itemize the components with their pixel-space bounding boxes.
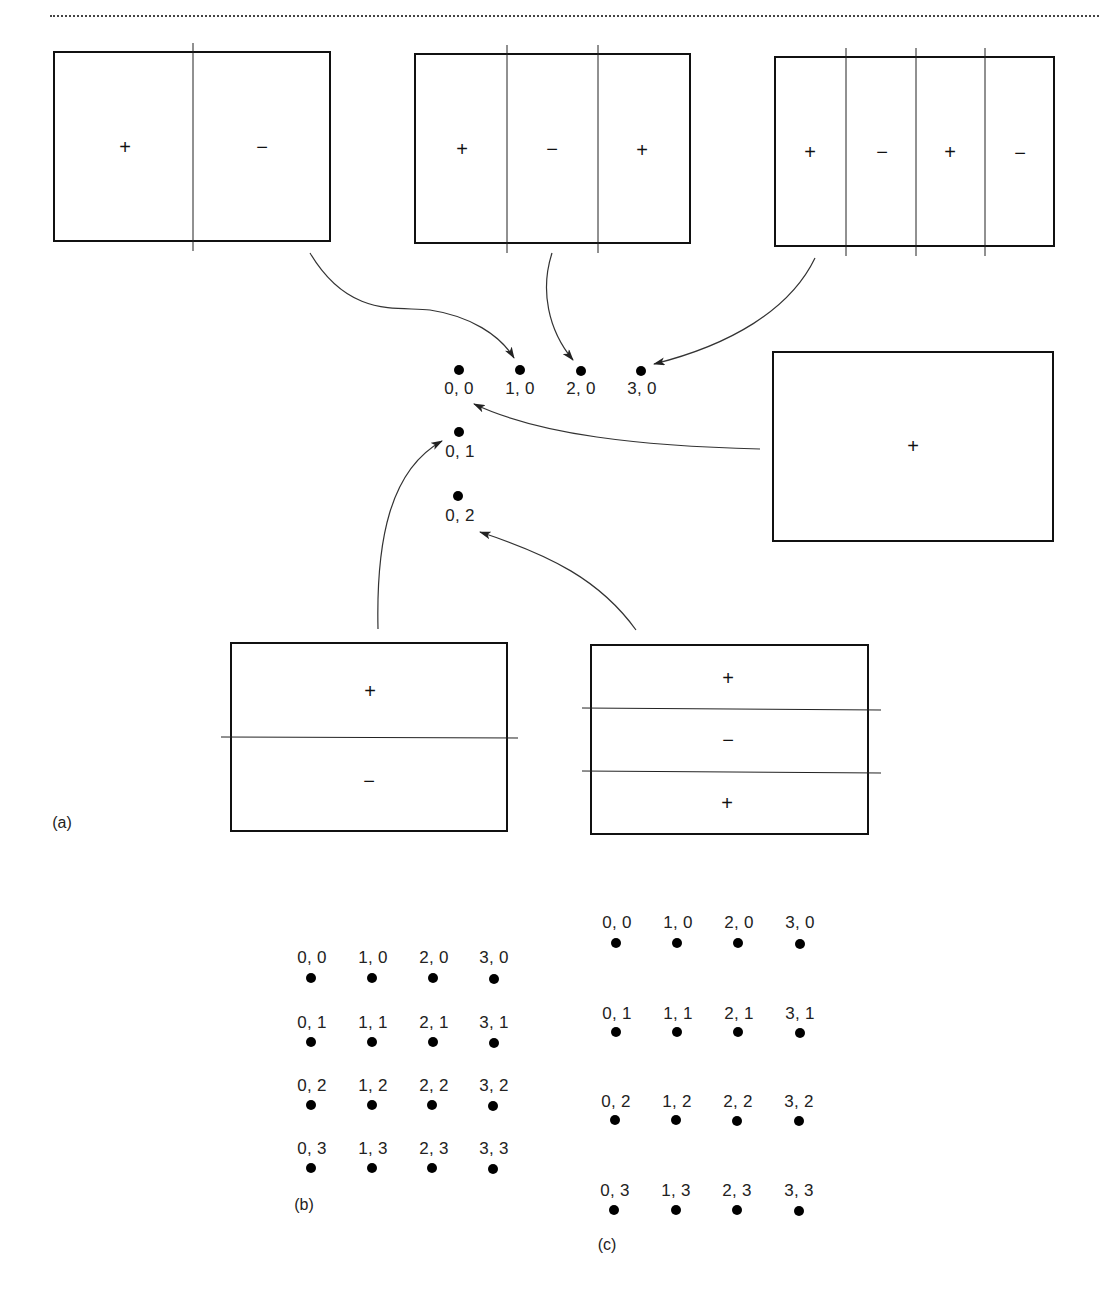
grid-c-label: 3, 0	[785, 913, 815, 933]
grid-b-label: 3, 2	[479, 1076, 509, 1096]
sign-plus: +	[721, 792, 733, 815]
grid-b-label: 1, 3	[358, 1139, 388, 1159]
arrow-box-1x2-to-0-1	[378, 441, 442, 629]
sign-minus: −	[256, 136, 268, 159]
point-label: 1, 0	[505, 379, 535, 399]
grid-c-label: 2, 0	[724, 913, 754, 933]
sign-minus: −	[363, 770, 375, 793]
arrow-box-1x3-to-0-2	[480, 532, 636, 630]
grid-c-label: 2, 2	[723, 1092, 753, 1112]
sign-plus: +	[804, 141, 816, 164]
grid-c-label: 1, 0	[663, 913, 693, 933]
grid-b-label: 2, 0	[419, 948, 449, 968]
arrow-box-4x1-to-3-0	[654, 258, 815, 364]
panel-a-caption: (a)	[52, 814, 72, 832]
arrow-box-2x1-to-1-0	[310, 253, 514, 358]
grid-b-label: 2, 1	[419, 1013, 449, 1033]
sign-minus: −	[722, 729, 734, 752]
box-1x2	[221, 643, 518, 831]
panel-a-graphics	[0, 0, 1099, 1295]
point-label: 0, 2	[445, 506, 475, 526]
grid-b-label: 3, 1	[479, 1013, 509, 1033]
grid-b-label: 2, 2	[419, 1076, 449, 1096]
panel-c-caption: (c)	[598, 1236, 617, 1254]
grid-c-label: 0, 0	[602, 913, 632, 933]
point-label: 0, 1	[445, 442, 475, 462]
panel-a-points	[453, 365, 646, 501]
box-2x1	[54, 43, 330, 251]
grid-b-label: 1, 1	[358, 1013, 388, 1033]
grid-b-label: 0, 0	[297, 948, 327, 968]
grid-c-label: 1, 1	[663, 1004, 693, 1024]
grid-b-label: 1, 0	[358, 948, 388, 968]
grid-c-label: 3, 2	[784, 1092, 814, 1112]
grid-c-label: 0, 2	[601, 1092, 631, 1112]
sign-plus: +	[456, 138, 468, 161]
box-4x1	[775, 48, 1054, 256]
grid-b-label: 1, 2	[358, 1076, 388, 1096]
point-label: 0, 0	[444, 379, 474, 399]
grid-c-label: 1, 2	[662, 1092, 692, 1112]
sign-minus: −	[546, 138, 558, 161]
grid-c-label: 0, 1	[602, 1004, 632, 1024]
panel-b-caption: (b)	[294, 1196, 314, 1214]
grid-b-label: 0, 1	[297, 1013, 327, 1033]
point-label: 2, 0	[566, 379, 596, 399]
grid-c-label: 3, 3	[784, 1181, 814, 1201]
grid-c-label: 1, 3	[661, 1181, 691, 1201]
grid-c-label: 2, 1	[724, 1004, 754, 1024]
grid-c-label: 0, 3	[600, 1181, 630, 1201]
grid-b-label: 3, 0	[479, 948, 509, 968]
sign-minus: −	[876, 141, 888, 164]
grid-c-label: 2, 3	[722, 1181, 752, 1201]
arrow-box-uniform-to-0-0	[474, 404, 760, 449]
sign-plus: +	[722, 667, 734, 690]
arrow-box-3x1-to-2-0	[547, 253, 573, 360]
grid-b-label: 0, 2	[297, 1076, 327, 1096]
grid-b-label: 2, 3	[419, 1139, 449, 1159]
grid-b-label: 0, 3	[297, 1139, 327, 1159]
sign-plus: +	[944, 141, 956, 164]
grid-c-label: 3, 1	[785, 1004, 815, 1024]
panel-b-dots	[306, 973, 499, 1174]
point-label: 3, 0	[627, 379, 657, 399]
sign-minus: −	[1014, 142, 1026, 165]
panel-c-dots	[609, 938, 805, 1216]
sign-plus: +	[907, 435, 919, 458]
sign-plus: +	[119, 136, 131, 159]
grid-b-label: 3, 3	[479, 1139, 509, 1159]
sign-plus: +	[364, 680, 376, 703]
sign-plus: +	[636, 139, 648, 162]
